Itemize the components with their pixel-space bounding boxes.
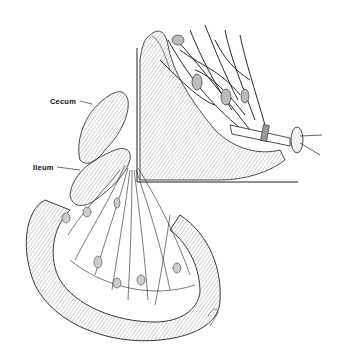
cecum-leader-line <box>80 101 92 104</box>
small-bowel-loop <box>26 200 220 341</box>
ileum-label: Ileum <box>33 163 54 172</box>
inset-bowel <box>140 31 285 180</box>
ileum-leader-line <box>57 167 80 170</box>
anatomical-illustration <box>0 0 337 355</box>
mesentery-lymph-nodes <box>62 198 181 288</box>
cecum-label: Cecum <box>50 97 76 106</box>
